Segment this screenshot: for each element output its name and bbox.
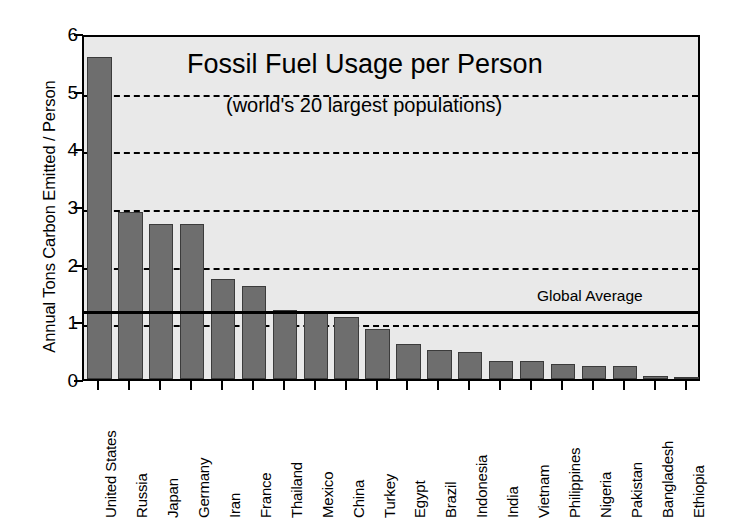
fossil-fuel-bar-chart: Annual Tons Carbon Emitted / Person 0123… (0, 0, 730, 526)
x-tick-mark (159, 381, 161, 390)
x-tick-label: Ethiopia (690, 465, 707, 518)
x-tick-mark (190, 381, 192, 390)
x-tick-label: Thailand (288, 462, 305, 518)
bar (396, 344, 420, 379)
global-average-label: Global Average (537, 287, 643, 305)
x-tick-mark (468, 381, 470, 390)
x-tick-label: Mexico (319, 472, 336, 518)
x-tick-mark (314, 381, 316, 390)
bar (118, 212, 142, 379)
x-tick-label: Germany (195, 458, 212, 518)
x-tick-label: Philippines (566, 448, 583, 518)
bar (149, 224, 173, 379)
x-tick-mark (376, 381, 378, 390)
x-axis-tick-labels: United StatesRussiaJapanGermanyIranFranc… (82, 394, 700, 524)
bar (87, 57, 111, 379)
bar (582, 366, 606, 379)
x-tick-label: China (350, 480, 367, 518)
x-tick-mark (283, 381, 285, 390)
x-tick-mark (345, 381, 347, 390)
x-tick-mark (654, 381, 656, 390)
plot-area: Global Average Fossil Fuel Usage per Per… (82, 35, 700, 381)
x-tick-label: India (504, 486, 521, 518)
x-tick-mark (592, 381, 594, 390)
x-tick-label: United States (102, 431, 119, 518)
x-tick-label: Egypt (411, 481, 428, 518)
chart-subtitle: (world's 20 largest populations) (226, 94, 502, 117)
bar (365, 329, 389, 379)
bar (334, 317, 358, 379)
x-tick-mark (221, 381, 223, 390)
bar (180, 224, 204, 379)
bar (273, 310, 297, 379)
global-average-line (84, 311, 698, 314)
x-tick-mark (437, 381, 439, 390)
x-tick-label: Indonesia (473, 455, 490, 518)
x-tick-label: Iran (226, 493, 243, 518)
y-tick-label: 6 (38, 24, 78, 46)
x-tick-label: Vietnam (535, 465, 552, 518)
y-axis-tick-labels: 0123456 (34, 35, 78, 381)
bar (551, 364, 575, 379)
x-tick-label: Brazil (442, 482, 459, 518)
bar (304, 312, 328, 379)
plot-inner: Global Average Fossil Fuel Usage per Per… (84, 37, 698, 379)
y-tick-label: 1 (38, 312, 78, 334)
bar (520, 361, 544, 379)
y-tick-label: 4 (38, 139, 78, 161)
bar (489, 361, 513, 379)
bar (643, 376, 667, 379)
x-axis-tick-marks (82, 381, 700, 391)
bar (458, 352, 482, 379)
x-tick-label: Turkey (381, 474, 398, 518)
x-tick-label: Nigeria (597, 472, 614, 518)
x-tick-label: France (257, 473, 274, 519)
x-tick-mark (623, 381, 625, 390)
bar (242, 286, 266, 379)
x-tick-mark (561, 381, 563, 390)
x-tick-mark (530, 381, 532, 390)
x-tick-mark (97, 381, 99, 390)
x-tick-mark (128, 381, 130, 390)
y-tick-label: 3 (38, 197, 78, 219)
bar (211, 279, 235, 379)
bar (427, 350, 451, 379)
bar-series (84, 37, 698, 379)
x-tick-label: Pakistan (628, 462, 645, 518)
y-tick-label: 0 (38, 370, 78, 392)
chart-title: Fossil Fuel Usage per Person (187, 49, 543, 80)
y-tick-label: 2 (38, 255, 78, 277)
bar (613, 366, 637, 379)
x-tick-label: Russia (133, 473, 150, 518)
x-tick-label: Bangladesh (659, 441, 676, 518)
x-tick-mark (252, 381, 254, 390)
y-tick-label: 5 (38, 82, 78, 104)
bar (674, 377, 698, 379)
x-tick-mark (406, 381, 408, 390)
x-tick-label: Japan (164, 478, 181, 518)
x-tick-mark (685, 381, 687, 390)
x-tick-mark (499, 381, 501, 390)
